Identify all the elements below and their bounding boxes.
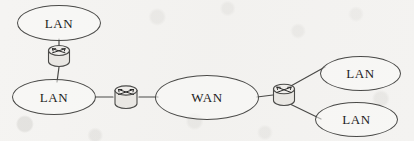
network-cloud-lan-top-left[interactable]: LAN: [17, 5, 101, 41]
cloud-label: LAN: [45, 17, 74, 30]
network-cloud-wan[interactable]: WAN: [155, 75, 259, 120]
network-cloud-lan-bottom-left[interactable]: LAN: [12, 79, 96, 115]
router-icon-middle[interactable]: [112, 84, 140, 110]
cloud-label: LAN: [342, 113, 371, 126]
network-cloud-lan-top-right[interactable]: LAN: [320, 56, 401, 91]
router-icon-right[interactable]: [271, 82, 297, 108]
network-diagram-canvas: LAN LAN WAN LAN LAN: [0, 0, 414, 141]
network-cloud-lan-bottom-right[interactable]: LAN: [315, 102, 398, 137]
cloud-label: WAN: [191, 91, 222, 104]
cloud-label: LAN: [40, 91, 69, 104]
router-icon-left[interactable]: [46, 43, 72, 69]
cloud-label: LAN: [346, 67, 375, 80]
